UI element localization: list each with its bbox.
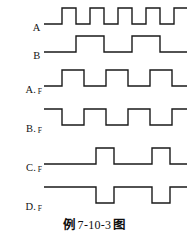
waveform-row-b: B — [0, 28, 189, 62]
waveform-row-cf: C.F — [0, 140, 189, 174]
waveform-row-df: D.F — [0, 179, 189, 213]
waveform-trace-df — [42, 179, 189, 213]
waveform-trace-b — [42, 28, 189, 62]
waveform-row-af: A.F — [0, 62, 189, 96]
caption-cjk-right: 图 — [113, 217, 126, 232]
caption-cjk-left: 例 — [63, 217, 76, 232]
figure-caption: 例7-10-3图 — [0, 214, 189, 233]
waveform-label-b-base: B — [33, 51, 40, 62]
waveform-label-af: A.F — [0, 62, 42, 96]
waveform-trace-cf — [42, 140, 189, 174]
waveform-label-df-base: D. — [26, 202, 37, 213]
caption-number: 7-10-3 — [76, 218, 113, 232]
waveform-trace-af — [42, 62, 189, 96]
timing-diagram-figure: A B A.F B.F — [0, 0, 189, 235]
waveform-label-af-base: A. — [26, 85, 37, 96]
waveform-label-df: D.F — [0, 179, 42, 213]
waveform-trace-bf — [42, 101, 189, 135]
waveform-label-b: B — [0, 28, 42, 62]
waveform-label-cf-base: C. — [26, 163, 36, 174]
waveform-label-cf: C.F — [0, 140, 42, 174]
waveform-label-bf: B.F — [0, 101, 42, 135]
waveform-label-bf-base: B. — [26, 124, 36, 135]
waveform-row-bf: B.F — [0, 101, 189, 135]
